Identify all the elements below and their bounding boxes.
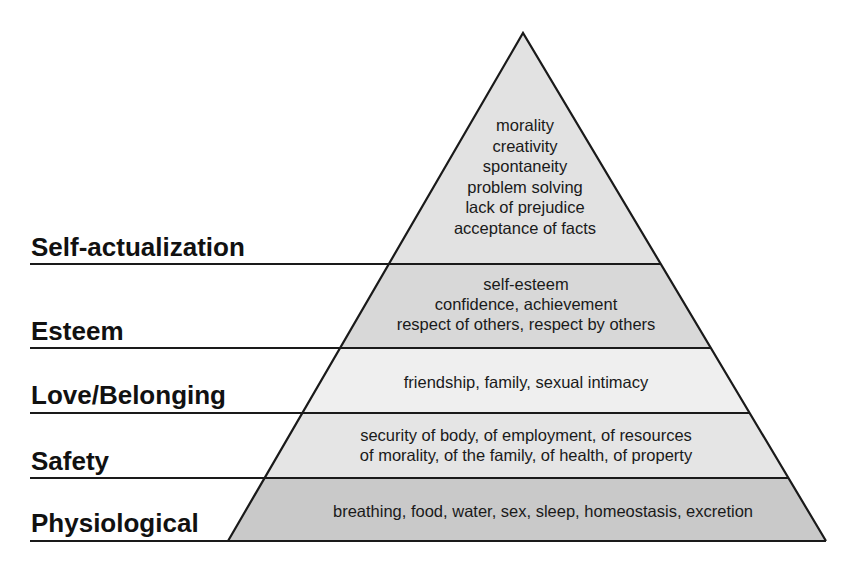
need-item: acceptance of facts [454, 218, 596, 239]
band-text-safety: security of body, of employment, of reso… [360, 425, 692, 465]
need-item: friendship, family, sexual intimacy [404, 372, 649, 392]
need-item: security of body, of employment, of reso… [360, 425, 692, 445]
level-label-physiological: Physiological [31, 510, 199, 536]
need-item: respect of others, respect by others [397, 314, 656, 334]
level-label-safety: Safety [31, 448, 109, 474]
need-item: morality [454, 115, 596, 136]
level-label-self-actualization: Self-actualization [31, 234, 245, 260]
need-item: spontaneity [454, 156, 596, 177]
level-label-love-belonging: Love/Belonging [31, 382, 226, 408]
need-item: of morality, of the family, of health, o… [360, 445, 692, 465]
band-text-esteem: self-esteem confidence, achievement resp… [397, 274, 656, 334]
need-item: creativity [454, 136, 596, 157]
band-text-physiological: breathing, food, water, sex, sleep, home… [333, 501, 753, 521]
level-label-esteem: Esteem [31, 318, 124, 344]
need-item: breathing, food, water, sex, sleep, home… [333, 501, 753, 521]
need-item: self-esteem [397, 274, 656, 294]
need-item: problem solving [454, 177, 596, 198]
need-item: confidence, achievement [397, 294, 656, 314]
need-item: lack of prejudice [454, 197, 596, 218]
band-text-love-belonging: friendship, family, sexual intimacy [404, 372, 649, 392]
band-text-self-actualization: morality creativity spontaneity problem … [454, 115, 596, 238]
